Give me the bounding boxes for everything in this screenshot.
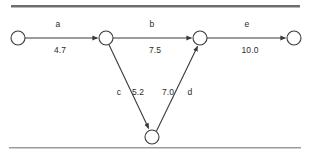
edge-b-name: b [150, 19, 155, 29]
node-n4[interactable] [287, 31, 301, 45]
node-n5[interactable] [145, 130, 159, 144]
bottom-rule-highlight [9, 148, 301, 149]
node-n3[interactable] [193, 31, 207, 45]
activity-network-graph [0, 0, 310, 155]
edge-a-value: 4.7 [54, 45, 66, 55]
edge-d-value: 7.0 [162, 87, 174, 97]
edge-b-value: 7.5 [149, 45, 161, 55]
edge-e-name: e [245, 19, 250, 29]
edge-d-name: d [188, 87, 193, 97]
node-n2[interactable] [99, 31, 113, 45]
node-n1[interactable] [11, 31, 25, 45]
edge-a-name: a [56, 19, 61, 29]
edge-e-value: 10.0 [242, 45, 259, 55]
edge-c-value: 5.2 [132, 87, 144, 97]
diagram-canvas: a 4.7 b 7.5 c 5.2 7.0 d e 10.0 [0, 0, 310, 155]
edge-c-name: c [117, 87, 121, 97]
